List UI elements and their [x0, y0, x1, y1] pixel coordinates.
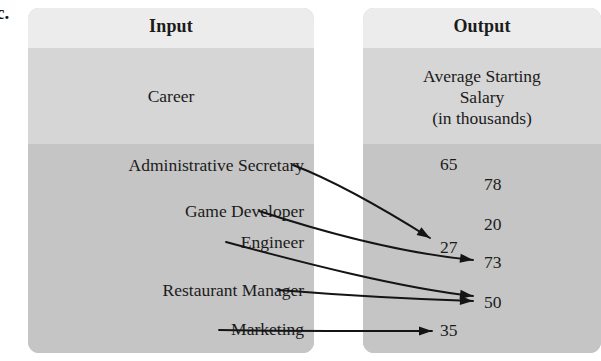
input-item-1: Game Developer [185, 201, 304, 222]
part-label: c. [0, 2, 22, 24]
output-subtitle-line: (in thousands) [363, 108, 601, 129]
output-subtitle-line: Salary [363, 87, 601, 108]
output-subtitle-line: Average Starting [363, 66, 601, 87]
input-item-4: Marketing [231, 319, 304, 340]
input-item-0: Administrative Secretary [129, 155, 304, 176]
output-panel-title: Output [363, 16, 601, 37]
input-item-2: Engineer [241, 232, 304, 253]
input-panel: Input Career Administrative SecretaryGam… [28, 8, 314, 353]
output-item-2: 20 [484, 214, 502, 235]
input-panel-subtitle: Career [28, 86, 314, 107]
output-item-6: 35 [440, 320, 458, 341]
output-item-4: 73 [484, 252, 502, 273]
output-panel: Output Average StartingSalary(in thousan… [363, 8, 601, 353]
input-item-3: Restaurant Manager [163, 280, 304, 301]
output-body-band [363, 144, 601, 353]
output-panel-subtitle: Average StartingSalary(in thousands) [363, 66, 601, 129]
output-item-5: 50 [484, 292, 502, 313]
output-item-1: 78 [484, 174, 502, 195]
output-item-3: 27 [440, 237, 458, 258]
output-item-0: 65 [440, 154, 458, 175]
input-panel-title: Input [28, 16, 314, 37]
